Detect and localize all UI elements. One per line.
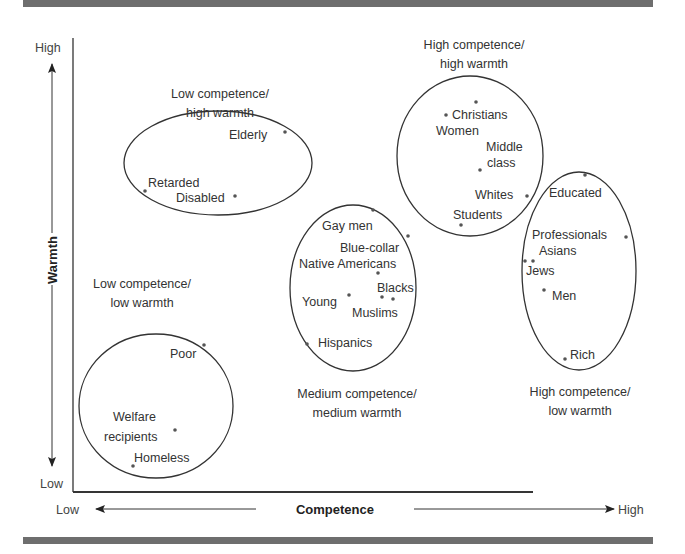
data-point-retarded [143, 189, 147, 193]
cluster-caption: Medium competence/ [297, 387, 417, 401]
cluster-medium-competence-medium-warmth: Gay men Blue-collar Native Americans Bla… [290, 205, 417, 420]
y-axis-high-label: High [35, 41, 61, 55]
group-label-middle-class: Middle [486, 140, 523, 154]
data-point-educated [583, 173, 587, 177]
data-point-disabled [233, 194, 237, 198]
cluster-caption: Low competence/ [171, 87, 270, 101]
group-label-homeless: Homeless [134, 451, 190, 465]
cluster-caption: High competence/ [530, 385, 631, 399]
group-label-whites: Whites [475, 188, 513, 202]
group-label-women: Women [436, 124, 479, 138]
data-point-asians [531, 259, 535, 263]
data-point-muslims [391, 297, 395, 301]
group-label-asians: Asians [539, 244, 577, 258]
data-point-young [347, 293, 351, 297]
group-label-young: Young [302, 295, 337, 309]
stereotype-content-diagram: High Low Warmth Low Competence High Low … [0, 0, 685, 554]
group-label-welfare-recipients-2: recipients [104, 430, 158, 444]
data-point-men [542, 288, 546, 292]
group-label-students: Students [453, 208, 502, 222]
data-point-native-americans [376, 271, 380, 275]
group-label-gay-men: Gay men [322, 219, 373, 233]
group-label-disabled: Disabled [176, 191, 225, 205]
group-label-retarded: Retarded [148, 176, 199, 190]
cluster-caption: low warmth [110, 296, 173, 310]
data-point-homeless [131, 464, 135, 468]
group-label-native-americans: Native Americans [299, 257, 396, 271]
group-label-welfare-recipients: Welfare [113, 410, 156, 424]
data-point-welfare-recipients [173, 428, 177, 432]
cluster-high-competence-high-warmth: High competence/ high warmth Christians … [397, 38, 543, 236]
data-point-whites [525, 194, 529, 198]
x-axis-title: Competence [296, 502, 374, 517]
group-label-middle-class-2: class [487, 156, 515, 170]
group-label-blacks: Blacks [377, 281, 414, 295]
group-label-hispanics: Hispanics [318, 336, 372, 350]
data-point-middle-class [478, 168, 482, 172]
data-point-blacks [380, 295, 384, 299]
y-axis-title: Warmth [45, 236, 60, 284]
cluster-low-competence-low-warmth: Low competence/ low warmth Poor Welfare … [79, 277, 233, 478]
data-point-jews [523, 259, 527, 263]
group-label-educated: Educated [549, 186, 602, 200]
data-point-gay-men [371, 208, 375, 212]
y-axis-low-label: Low [40, 477, 64, 491]
x-axis-high-label: High [618, 503, 644, 517]
data-point-women [444, 113, 448, 117]
cluster-caption: Low competence/ [93, 277, 192, 291]
data-point-poor [202, 343, 206, 347]
group-label-christians: Christians [452, 108, 508, 122]
cluster-caption: medium warmth [313, 406, 402, 420]
group-label-elderly: Elderly [229, 128, 268, 142]
data-point-elderly [283, 130, 287, 134]
cluster-high-competence-low-warmth: Educated Professionals Asians Jews Men R… [522, 172, 636, 418]
data-point-professionals [624, 235, 628, 239]
data-point-rich [563, 357, 567, 361]
cluster-low-competence-high-warmth: Low competence/ high warmth Elderly Reta… [124, 87, 312, 215]
data-point-hispanics [305, 342, 309, 346]
group-label-muslims: Muslims [352, 306, 398, 320]
data-point-students [459, 223, 463, 227]
group-label-rich: Rich [570, 348, 595, 362]
group-label-poor: Poor [170, 347, 196, 361]
x-axis-low-label: Low [56, 503, 80, 517]
group-label-men: Men [552, 289, 576, 303]
cluster-caption: low warmth [548, 404, 611, 418]
data-point-blue-collar [406, 234, 410, 238]
data-point-christians [474, 100, 478, 104]
group-label-jews: Jews [526, 264, 554, 278]
group-label-blue-collar: Blue-collar [340, 241, 399, 255]
cluster-caption: High competence/ [424, 38, 525, 52]
group-label-professionals: Professionals [532, 228, 607, 242]
cluster-caption: high warmth [440, 57, 508, 71]
